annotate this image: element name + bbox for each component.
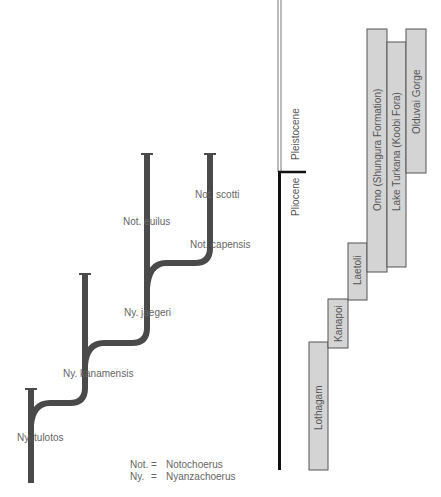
label-pliocene: Pliocene (290, 177, 301, 216)
label-jaegeri: Ny. jaegeri (124, 307, 171, 318)
legend-eq-not: = (151, 459, 157, 470)
epoch-timeline: Pleistocene Pliocene (278, 0, 306, 470)
legend-full-not: Notochoerus (166, 459, 223, 470)
legend-abbr-ny: Ny. (130, 471, 144, 482)
legend-eq-ny: = (151, 471, 157, 482)
phylogeny-diagram: Ny. tulotos Ny. kanamensis Ny. jaegeri N… (0, 0, 441, 497)
branch-caps (25, 154, 216, 389)
legend: Not. = Notochoerus Ny. = Nyanzachoerus (130, 459, 235, 482)
label-euilus: Not. euilus (123, 216, 170, 227)
label-olduvai: Olduvai Gorge (411, 69, 422, 134)
label-tulotos: Ny. tulotos (17, 432, 64, 443)
label-capensis: Not. capensis (190, 239, 251, 250)
label-lake-turkana: Lake Turkana (Koobi Fora) (391, 92, 402, 211)
site-boxes (309, 29, 426, 470)
label-pleistocene: Pleistocene (290, 108, 301, 160)
legend-full-ny: Nyanzachoerus (166, 471, 235, 482)
label-laetoli: Laetoli (352, 256, 363, 285)
label-kanapoi: Kanapoi (333, 305, 344, 342)
label-omo: Omo (Shungura Formation) (372, 89, 383, 211)
legend-abbr-not: Not. (130, 459, 148, 470)
label-lothagam: Lothagam (313, 386, 324, 430)
label-kanamensis: Ny. kanamensis (63, 368, 133, 379)
label-scotti: Not. scotti (195, 189, 239, 200)
